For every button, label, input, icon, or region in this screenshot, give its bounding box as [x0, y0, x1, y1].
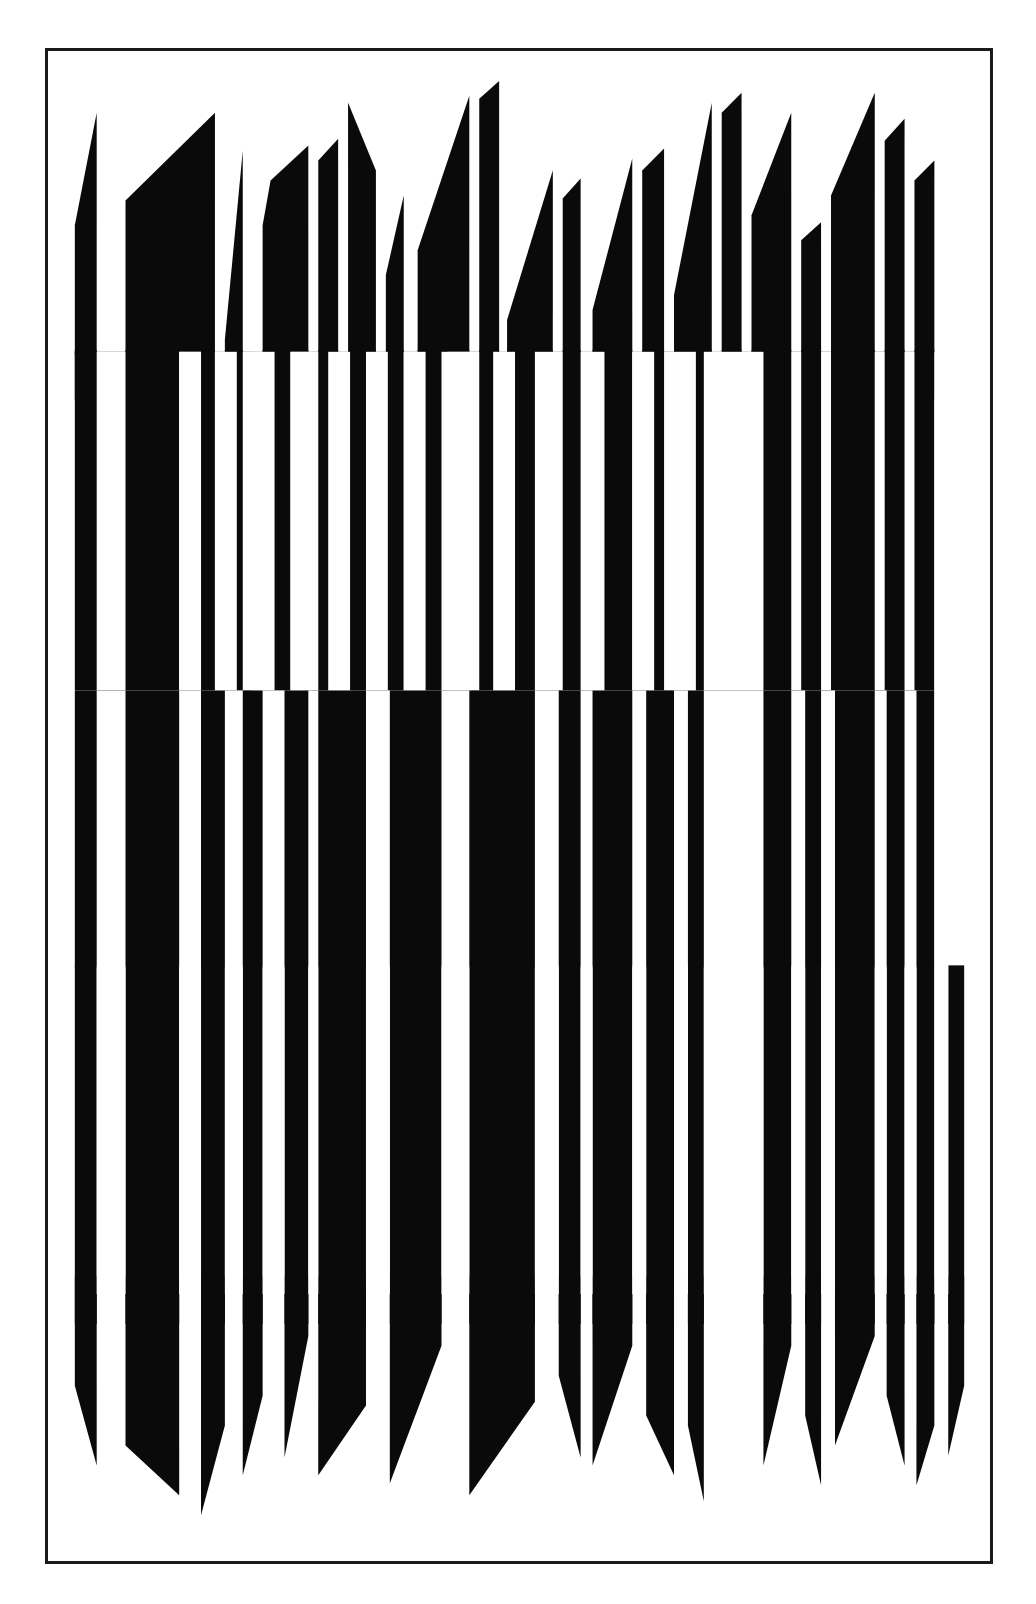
- lower-bar-16: [887, 965, 905, 1324]
- slot-l-12: [704, 690, 764, 967]
- artboard: Untitled Geometric Composition Black and…: [0, 0, 1036, 1604]
- lower-bar-06: [318, 965, 366, 1324]
- slot-l-13: [791, 690, 805, 967]
- slot-u-17: [791, 352, 801, 691]
- slot-l-11: [674, 690, 688, 967]
- slot-l-06: [366, 690, 390, 967]
- bar-17-spike: [801, 222, 821, 354]
- slot-l-04: [263, 690, 285, 967]
- bar-15-spike: [722, 93, 742, 355]
- lower-bar-09: [559, 965, 581, 1324]
- sliver-17: [934, 965, 948, 1294]
- slot-l-07: [441, 690, 469, 967]
- bar-20-spike: [914, 161, 934, 355]
- lower-bar-12: [688, 965, 704, 1324]
- slot-band-lower: [75, 690, 950, 967]
- slot-l-08: [535, 690, 559, 967]
- lower-bar-17: [916, 965, 934, 1324]
- sliver-14: [821, 965, 835, 1294]
- slot-l-10: [632, 690, 646, 967]
- lower-bar-05: [284, 965, 308, 1324]
- sliver-16: [905, 965, 917, 1294]
- lower-bar-04: [243, 965, 263, 1324]
- sliver-10: [632, 965, 646, 1294]
- slot-l-02: [179, 690, 201, 967]
- slot-l-03: [225, 690, 243, 967]
- slot-u-20: [905, 352, 915, 691]
- lower-bar-14: [805, 965, 821, 1324]
- bar-13-spike: [642, 149, 664, 355]
- lower-bar-07: [390, 965, 442, 1324]
- slot-u-19: [875, 352, 885, 691]
- sliver-13: [791, 965, 805, 1294]
- sliver-03: [225, 965, 243, 1294]
- sliver-05: [308, 965, 318, 1294]
- lower-bar-13: [763, 965, 791, 1324]
- slot-u-21: [934, 352, 948, 691]
- sliver-08: [535, 965, 559, 1294]
- bar-19-spike: [885, 119, 905, 355]
- lower-bar-15: [835, 965, 875, 1324]
- lower-bar-02: [126, 965, 180, 1324]
- artwork-canvas: [48, 51, 990, 1561]
- slot-l-01: [97, 690, 126, 967]
- slot-u-01: [97, 352, 126, 691]
- slot-l-17: [934, 690, 950, 967]
- slot-l-16: [905, 690, 917, 967]
- lower-bar-03: [201, 965, 225, 1324]
- sliver-02: [179, 965, 201, 1294]
- sliver-04: [263, 965, 285, 1294]
- sliver-12: [704, 965, 764, 1294]
- slot-u-18: [821, 352, 831, 691]
- sliver-11: [674, 965, 688, 1294]
- sliver-06: [366, 965, 390, 1294]
- bar-11-spike: [563, 178, 581, 354]
- lower-bar-01: [75, 965, 97, 1324]
- sliver-15: [875, 965, 887, 1294]
- lower-bar-18: [948, 965, 964, 1324]
- slot-band-lower-field: [75, 690, 935, 967]
- bar-05-spike: [318, 139, 338, 355]
- lower-bar-08: [469, 965, 535, 1324]
- slot-l-09: [581, 690, 593, 967]
- artwork-frame: [45, 48, 993, 1564]
- slot-l-05: [308, 690, 318, 967]
- bar-09-spike: [479, 81, 499, 355]
- sliver-09: [581, 965, 593, 1294]
- slot-l-14: [821, 690, 835, 967]
- lower-bar-11: [646, 965, 674, 1324]
- sliver-07: [441, 965, 469, 1294]
- slot-u-14: [664, 352, 674, 691]
- lower-bar-10: [593, 965, 633, 1324]
- slot-l-15: [875, 690, 887, 967]
- sliver-01: [97, 965, 126, 1294]
